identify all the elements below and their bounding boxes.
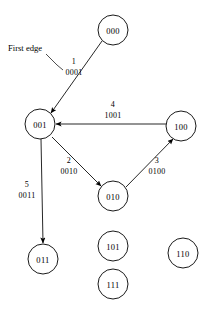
edge-010-to-100 xyxy=(126,139,173,187)
node-111-label: 111 xyxy=(106,280,119,290)
graph-diagram: 000 001 100 010 101 111 xyxy=(0,0,208,309)
edge-100-to-001-code-label: 1001 xyxy=(104,111,121,120)
first-edge-annotation-label: First edge xyxy=(8,43,42,53)
edge-000-to-001-code-label: 0001 xyxy=(65,68,82,77)
edge-layer xyxy=(41,41,173,243)
node-110[interactable]: 110 xyxy=(168,238,198,268)
node-001[interactable]: 001 xyxy=(25,109,55,139)
edge-001-to-010-code-label: 0010 xyxy=(60,167,77,176)
node-101-label: 101 xyxy=(106,242,120,252)
graph-canvas: 000 001 100 010 101 111 xyxy=(0,0,208,309)
node-101[interactable]: 101 xyxy=(98,231,128,261)
edge-000-to-001 xyxy=(51,41,102,113)
edge-010-to-100-code-label: 0100 xyxy=(148,167,165,176)
node-011[interactable]: 011 xyxy=(28,244,58,274)
edge-010-to-100-order-label: 3 xyxy=(155,156,159,165)
node-000-label: 000 xyxy=(106,26,120,36)
edge-001-to-010 xyxy=(52,137,101,186)
edge-001-to-011-code-label: 0011 xyxy=(19,191,36,200)
node-010-label: 010 xyxy=(106,192,120,202)
node-100[interactable]: 100 xyxy=(166,111,196,141)
node-111[interactable]: 111 xyxy=(98,269,128,299)
edge-000-to-001-order-label: 1 xyxy=(72,57,76,66)
node-000[interactable]: 000 xyxy=(98,15,128,45)
node-110-label: 110 xyxy=(176,249,189,259)
node-layer: 000 001 100 010 101 111 xyxy=(25,15,198,299)
edge-001-to-011 xyxy=(41,139,43,243)
edge-001-to-011-order-label: 5 xyxy=(25,180,29,189)
edge-001-to-010-order-label: 2 xyxy=(67,156,71,165)
first-edge-leader-line xyxy=(46,54,63,70)
node-100-label: 100 xyxy=(174,122,188,132)
node-001-label: 001 xyxy=(33,120,47,130)
node-011-label: 011 xyxy=(36,255,49,265)
node-010[interactable]: 010 xyxy=(98,181,128,211)
edge-100-to-001-order-label: 4 xyxy=(111,100,115,109)
